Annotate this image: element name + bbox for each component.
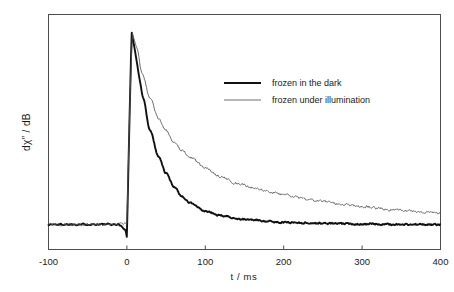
x-axis-tick-label: 200 [276, 256, 292, 267]
legend-label: frozen in the dark [272, 78, 342, 88]
x-axis-tick-label: -100 [39, 256, 58, 267]
figure-container: -1000100200300400 t / ms dχ” / dB frozen… [0, 0, 454, 292]
x-axis-title: t / ms [231, 271, 258, 282]
chart-background [0, 0, 454, 292]
chart-canvas: -1000100200300400 t / ms dχ” / dB frozen… [0, 0, 454, 292]
legend-label: frozen under illumination [272, 95, 370, 105]
x-axis-tick-label: 400 [433, 256, 449, 267]
y-axis-title: dχ” / dB [21, 113, 32, 151]
x-axis-tick-label: 300 [354, 256, 370, 267]
x-axis-tick-label: 0 [124, 256, 129, 267]
x-axis-tick-label: 100 [197, 256, 213, 267]
